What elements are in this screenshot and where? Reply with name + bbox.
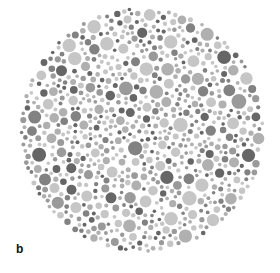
plate-dot	[137, 115, 141, 119]
plate-dot	[103, 69, 108, 74]
plate-dot	[82, 108, 87, 113]
plate-dot	[100, 195, 104, 199]
plate-dot	[31, 180, 36, 185]
plate-dot	[24, 160, 29, 165]
plate-dot	[79, 101, 83, 105]
plate-dot	[110, 229, 114, 233]
plate-dot	[135, 43, 140, 48]
plate-dot	[83, 234, 87, 238]
plate-dot	[152, 108, 158, 114]
plate-dot	[181, 138, 185, 142]
plate-dot	[159, 107, 163, 111]
plate-dot	[227, 171, 232, 176]
plate-dot	[98, 144, 103, 149]
plate-dot	[37, 81, 42, 86]
plate-dot	[160, 51, 164, 55]
plate-dot	[39, 174, 51, 186]
plate-dot	[151, 116, 155, 120]
plate-dot	[106, 192, 117, 203]
plate-dot	[195, 109, 200, 114]
plate-dot	[199, 217, 204, 222]
plate-dot	[142, 167, 146, 171]
plate-dot	[164, 113, 168, 117]
plate-dot	[188, 220, 192, 224]
plate-dot	[192, 37, 198, 43]
plate-dot	[77, 217, 82, 222]
plate-dot	[132, 158, 140, 166]
plate-dot	[180, 155, 184, 159]
plate-dot	[236, 145, 240, 149]
plate-dot	[99, 237, 103, 241]
plate-dot	[144, 9, 156, 21]
plate-dot	[83, 223, 87, 227]
plate-dot	[112, 113, 116, 117]
plate-dot	[139, 87, 146, 94]
plate-dot	[148, 225, 153, 230]
plate-dot	[68, 125, 72, 129]
plate-dot	[121, 30, 125, 34]
plate-dot	[89, 158, 93, 162]
plate-dot	[200, 49, 204, 53]
plate-dot	[49, 65, 56, 72]
plate-dot	[93, 189, 97, 193]
plate-dot	[211, 76, 217, 82]
plate-dot	[203, 193, 207, 197]
plate-dot	[25, 105, 30, 110]
plate-dot	[228, 65, 238, 75]
plate-dot	[26, 166, 30, 170]
plate-dot	[158, 246, 162, 250]
plate-dot	[253, 133, 265, 145]
plate-dot	[145, 48, 149, 52]
plate-dot	[174, 57, 178, 61]
plate-dot	[158, 45, 162, 49]
plate-dot	[198, 86, 208, 96]
plate-dot	[226, 79, 230, 83]
plate-dot	[144, 243, 148, 247]
plate-dot	[156, 29, 160, 33]
plate-dot	[104, 128, 108, 132]
plate-dot	[239, 137, 243, 141]
plate-dot	[30, 91, 34, 95]
plate-dot	[28, 143, 32, 147]
plate-dot	[46, 84, 50, 88]
plate-dot	[116, 116, 125, 125]
plate-dot	[204, 203, 208, 207]
plate-dot	[153, 142, 157, 146]
plate-dot	[199, 209, 203, 213]
plate-dot	[117, 20, 122, 25]
plate-dot	[233, 189, 237, 193]
plate-dot	[160, 118, 169, 127]
plate-dot	[82, 97, 86, 101]
plate-dot	[114, 11, 120, 17]
plate-dot	[158, 77, 162, 81]
plate-dot	[100, 60, 104, 64]
plate-dot	[172, 27, 177, 32]
plate-dot	[130, 94, 138, 102]
plate-dot	[131, 245, 135, 249]
plate-dot	[91, 226, 97, 232]
plate-dot	[80, 144, 85, 149]
plate-dot	[85, 56, 90, 61]
plate-dot	[131, 172, 138, 179]
plate-dot	[248, 131, 253, 136]
plate-dot	[168, 234, 172, 238]
plate-dot	[167, 241, 173, 247]
plate-dot	[86, 153, 90, 157]
plate-dot	[147, 124, 151, 128]
plate-dot	[173, 13, 177, 17]
plate-dot	[30, 161, 34, 165]
plate-dot	[20, 131, 24, 135]
plate-dot	[81, 191, 92, 202]
plate-dot	[140, 123, 145, 128]
plate-dot	[101, 210, 109, 218]
plate-dot	[120, 191, 124, 195]
plate-dot	[119, 82, 133, 96]
plate-dot	[94, 182, 98, 186]
plate-dot	[83, 52, 87, 56]
plate-dot	[59, 192, 63, 196]
plate-dot	[106, 243, 110, 247]
plate-dot	[171, 142, 175, 146]
plate-dot	[178, 25, 182, 29]
plate-dot	[217, 89, 221, 93]
plate-dot	[143, 150, 147, 154]
